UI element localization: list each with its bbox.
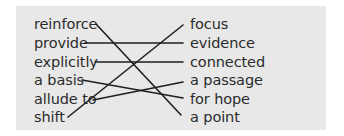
left-item-allude-to: allude to [34,90,97,109]
right-item-a-passage: a passage [190,71,263,90]
right-item-evidence: evidence [190,34,255,53]
left-item-reinforce: reinforce [34,15,97,34]
right-item-a-point: a point [190,108,240,127]
right-item-connected: connected [190,53,265,72]
left-item-provide: provide [34,34,88,53]
left-item-shift: shift [34,108,65,127]
left-item-a-basis: a basis [34,71,84,90]
left-item-explicitly: explicitly [34,53,98,72]
right-item-for-hope: for hope [190,90,250,109]
right-item-focus: focus [190,15,228,34]
